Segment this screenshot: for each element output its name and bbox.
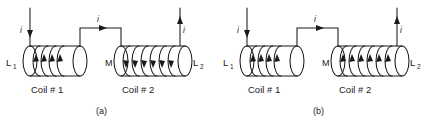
interconnect-a: i xyxy=(80,14,121,46)
current-out-label-b: i xyxy=(400,25,403,35)
inductor-label-l1-b: L 1 xyxy=(223,57,234,70)
mutual-inductance-label-a: M xyxy=(105,58,113,68)
panel-b: i L 1 xyxy=(223,8,421,116)
arrow-down-icon xyxy=(27,30,33,38)
lead-out-a: i xyxy=(177,8,186,46)
coil-1-b: L 1 Coil # 1 xyxy=(223,46,304,95)
panel-a: i xyxy=(6,8,204,116)
mutual-inductance-label-b: M xyxy=(322,58,330,68)
mutual-inductance-figure: i xyxy=(0,0,434,123)
l1-subscript-b: 1 xyxy=(230,63,234,70)
coil-2-a-turns xyxy=(123,46,175,76)
l2-letter-b: L xyxy=(410,57,415,68)
coil-2-b: L 2 Coil # 2 xyxy=(331,46,421,95)
l2-subscript-a: 2 xyxy=(200,63,204,70)
coil-1-caption-b: Coil # 1 xyxy=(248,84,280,95)
panel-caption-b: (b) xyxy=(313,106,324,116)
l1-letter-a: L xyxy=(6,57,11,68)
coil-1-b-turns xyxy=(250,46,281,76)
figure-canvas: i xyxy=(0,0,434,123)
coil-2-caption-a: Coil # 2 xyxy=(122,84,154,95)
coil-2-caption-b: Coil # 2 xyxy=(339,84,371,95)
coil-2-b-turns xyxy=(340,46,392,76)
arrow-down-icon xyxy=(244,30,250,38)
l1-subscript-a: 1 xyxy=(13,63,17,70)
inductor-label-l1-a: L 1 xyxy=(6,57,17,70)
lead-in-a: i xyxy=(20,8,33,46)
coil-1-a: L 1 Coil # 1 xyxy=(6,46,87,95)
panel-caption-a: (a) xyxy=(96,106,107,116)
inductor-label-l2-b: L 2 xyxy=(410,57,421,70)
arrow-right-icon xyxy=(99,25,107,31)
current-in-label-b: i xyxy=(237,25,240,35)
arrow-up-icon xyxy=(394,16,400,24)
coil-2-a: L 2 Coil # 2 xyxy=(114,46,204,95)
l1-letter-b: L xyxy=(223,57,228,68)
lead-in-b: i xyxy=(237,8,250,46)
l2-subscript-b: 2 xyxy=(417,63,421,70)
current-out-label-a: i xyxy=(183,25,186,35)
coil-1-caption-a: Coil # 1 xyxy=(31,84,63,95)
coil-1-a-turns xyxy=(33,46,64,76)
l2-letter-a: L xyxy=(193,57,198,68)
arrow-up-icon xyxy=(177,16,183,24)
interconnect-b: i xyxy=(297,14,338,46)
current-mid-label-b: i xyxy=(314,14,317,24)
current-mid-label-a: i xyxy=(97,14,100,24)
inductor-label-l2-a: L 2 xyxy=(193,57,204,70)
arrow-right-icon xyxy=(316,25,324,31)
current-in-label-a: i xyxy=(20,25,23,35)
lead-out-b: i xyxy=(394,8,403,46)
